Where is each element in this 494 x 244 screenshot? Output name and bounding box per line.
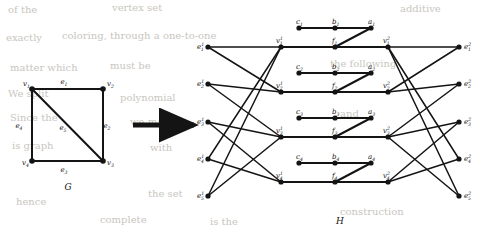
h-vertex-label-f2: f2	[331, 82, 338, 91]
h-vertex-label-a4: a4	[368, 153, 375, 162]
graph-g-edge-label-e2: e2	[103, 122, 110, 131]
h-vertex-eR1	[456, 44, 461, 49]
h-vertex-label-b4: b4	[332, 153, 339, 162]
h-vertex-eR5	[456, 193, 461, 198]
h-vertex-label-eL2: e12	[197, 79, 204, 90]
h-vertex-label-a3: a3	[368, 108, 375, 117]
h-vertex-eL2	[205, 81, 210, 86]
h-vertex-eL4	[205, 156, 210, 161]
h-vertex-eL5	[205, 193, 210, 198]
h-vertex-label-eR4: e24	[464, 154, 471, 165]
h-vertex-label-b2: b2	[332, 63, 339, 72]
graph-g-vertex-v3	[100, 158, 106, 164]
graph-h-labels: e11e12e13e14e15e21e22e23e24e25v11v12v13v…	[197, 18, 471, 202]
h-edge-a2-f2	[335, 73, 371, 92]
caption-graph-g: G	[64, 182, 71, 192]
h-vertex-label-b3: b3	[332, 108, 339, 117]
h-edge-eL4-vL1	[208, 47, 281, 159]
h-vertex-label-vL1: v11	[276, 36, 283, 47]
h-vertex-label-vR4: v24	[383, 171, 390, 182]
h-vertex-label-b1: b1	[332, 18, 339, 27]
h-vertex-label-f1: f1	[331, 37, 338, 46]
h-vertex-label-c1: c1	[296, 18, 303, 27]
h-edge-vR4-eR4	[388, 159, 459, 182]
h-vertex-label-eL5: e15	[197, 191, 204, 202]
h-edge-eL4-vL4	[208, 159, 281, 182]
h-vertex-label-eR5: e25	[464, 191, 471, 202]
graph-g-vertex-v4	[29, 158, 35, 164]
graph-g-vertex-v2	[100, 86, 106, 92]
graph-g-edges	[32, 89, 103, 161]
graph-g-edge-label-e4: e4	[15, 122, 22, 131]
graph-g-edge-label-e1: e1	[60, 78, 67, 87]
h-vertex-eL1	[205, 44, 210, 49]
graph-g-vertex-label-v3: v3	[107, 159, 114, 168]
h-vertex-label-f4: f4	[331, 172, 338, 181]
h-vertex-label-eL3: e13	[197, 117, 204, 128]
h-vertex-label-eR1: e21	[464, 42, 471, 53]
h-vertex-label-c3: c3	[296, 108, 303, 117]
h-edge-vR3-eR5	[388, 137, 459, 196]
graph-g-vertex-label-v4: v4	[22, 159, 29, 168]
h-vertex-label-vR3: v23	[383, 126, 390, 137]
h-vertex-label-vR1: v21	[383, 36, 390, 47]
h-vertex-label-eL4: e14	[197, 154, 204, 165]
h-edge-eL5-vL3	[208, 137, 281, 196]
caption-graph-h: H	[335, 216, 344, 226]
h-vertex-label-a1: a1	[368, 18, 375, 27]
h-vertex-label-c2: c2	[296, 63, 303, 72]
graph-g-edge-e5	[32, 89, 103, 161]
graph-g-vertex-label-v2: v2	[107, 80, 114, 89]
h-vertex-eR3	[456, 119, 461, 124]
graph-transformation-figure: v1v2v3v4e1e2e3e4e5 e11e12e13e14e15e21e22…	[0, 0, 494, 244]
h-vertex-label-f3: f3	[331, 127, 338, 136]
h-vertex-label-a2: a2	[368, 63, 375, 72]
h-edge-a4-f4	[335, 163, 371, 182]
h-edge-a3-f3	[335, 118, 371, 137]
h-vertex-label-eL1: e11	[197, 42, 204, 53]
h-vertex-label-eR2: e22	[464, 79, 471, 90]
h-vertex-label-eR3: e23	[464, 117, 471, 128]
h-vertex-eR2	[456, 81, 461, 86]
h-vertex-label-c4: c4	[296, 153, 303, 162]
h-edge-vR1-eR4	[388, 47, 459, 159]
h-vertex-label-vR2: v22	[383, 81, 390, 92]
h-vertex-eL3	[205, 119, 210, 124]
graph-g-vertex-label-v1: v1	[23, 80, 30, 89]
graph-g-edge-label-e5: e5	[59, 124, 66, 133]
h-edge-a1-f1	[335, 28, 371, 47]
h-vertex-eR4	[456, 156, 461, 161]
graph-g-vertex-v1	[29, 86, 35, 92]
graph-g-edge-label-e3: e3	[60, 166, 67, 175]
